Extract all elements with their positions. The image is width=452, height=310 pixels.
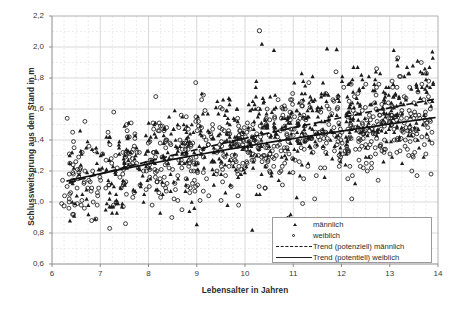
- y-axis-label: Schlussweitsprung aus dem Stand in m: [27, 32, 36, 262]
- scatter-chart: Schlussweitsprung aus dem Stand in m Leb…: [0, 0, 452, 310]
- x-tick-label: 10: [230, 269, 260, 278]
- legend-label-weiblich: weiblich: [313, 230, 340, 241]
- filled-triangle-marker-icon: [293, 223, 297, 226]
- legend-key-maennlich: [273, 219, 313, 230]
- y-tick-label: 0,6: [12, 259, 44, 268]
- y-tick-label: 1,6: [12, 104, 44, 113]
- x-tick-label: 11: [278, 269, 308, 278]
- y-tick-label: 2,2: [12, 11, 44, 20]
- solid-line-icon: [276, 257, 312, 258]
- x-axis-label: Lebensalter in Jahren: [52, 286, 438, 295]
- legend-label-trend-weiblich: Trend (potentiell) weiblich: [313, 252, 399, 263]
- dashed-line-icon: [276, 246, 312, 247]
- chart-legend: männlich weiblich Trend (potenziell) män…: [272, 217, 432, 263]
- y-tick-label: 0,8: [12, 228, 44, 237]
- x-tick-label: 8: [134, 269, 164, 278]
- x-tick-label: 7: [85, 269, 115, 278]
- x-tick-label: 6: [37, 269, 67, 278]
- plot-canvas: [0, 0, 452, 310]
- legend-label-maennlich: männlich: [313, 219, 343, 230]
- legend-key-trend-weiblich: [273, 252, 313, 263]
- open-circle-marker-icon: [292, 234, 295, 237]
- y-tick-label: 1,4: [12, 135, 44, 144]
- legend-item-weiblich: weiblich: [273, 230, 433, 241]
- legend-item-trend-maennlich: Trend (potenziell) männlich: [273, 241, 433, 252]
- legend-item-trend-weiblich: Trend (potentiell) weiblich: [273, 252, 433, 263]
- y-tick-label: 1,8: [12, 73, 44, 82]
- legend-key-weiblich: [273, 230, 313, 241]
- legend-label-trend-maennlich: Trend (potenziell) männlich: [313, 241, 404, 252]
- x-tick-label: 13: [375, 269, 405, 278]
- y-tick-label: 2,0: [12, 42, 44, 51]
- y-tick-label: 1,0: [12, 197, 44, 206]
- x-tick-label: 9: [182, 269, 212, 278]
- y-tick-label: 1,2: [12, 166, 44, 175]
- legend-key-trend-maennlich: [273, 241, 313, 252]
- legend-item-maennlich: männlich: [273, 219, 433, 230]
- x-tick-label: 14: [423, 269, 452, 278]
- x-tick-label: 12: [327, 269, 357, 278]
